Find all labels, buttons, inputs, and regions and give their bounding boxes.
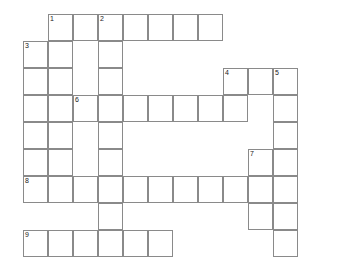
- crossword-cell[interactable]: [123, 95, 148, 122]
- crossword-cell[interactable]: [98, 68, 123, 95]
- crossword-cell[interactable]: [48, 41, 73, 68]
- crossword-grid[interactable]: 123456789: [0, 0, 346, 267]
- clue-number-1: 1: [50, 15, 54, 23]
- crossword-cell[interactable]: [48, 122, 73, 149]
- crossword-cell[interactable]: [248, 203, 273, 230]
- crossword-cell[interactable]: [273, 230, 298, 257]
- crossword-cell[interactable]: [148, 95, 173, 122]
- crossword-cell[interactable]: [198, 95, 223, 122]
- crossword-cell[interactable]: 7: [248, 149, 273, 176]
- clue-number-6: 6: [75, 96, 79, 104]
- crossword-cell[interactable]: [148, 14, 173, 41]
- crossword-cell[interactable]: 8: [23, 176, 48, 203]
- crossword-cell[interactable]: [23, 122, 48, 149]
- crossword-cell[interactable]: [23, 68, 48, 95]
- crossword-cell[interactable]: [98, 176, 123, 203]
- crossword-cell[interactable]: [98, 41, 123, 68]
- crossword-cell[interactable]: [148, 176, 173, 203]
- clue-number-3: 3: [25, 42, 29, 50]
- clue-number-2: 2: [100, 15, 104, 23]
- crossword-cell[interactable]: [198, 176, 223, 203]
- crossword-cell[interactable]: 2: [98, 14, 123, 41]
- clue-number-4: 4: [225, 69, 229, 77]
- crossword-cell[interactable]: [73, 176, 98, 203]
- crossword-cell[interactable]: [98, 230, 123, 257]
- crossword-cell[interactable]: [173, 176, 198, 203]
- crossword-cell[interactable]: [198, 14, 223, 41]
- crossword-cell[interactable]: [248, 176, 273, 203]
- crossword-cell[interactable]: [98, 203, 123, 230]
- crossword-cell[interactable]: [173, 14, 198, 41]
- crossword-cell[interactable]: [23, 95, 48, 122]
- crossword-cell[interactable]: [48, 230, 73, 257]
- crossword-cell[interactable]: [48, 95, 73, 122]
- crossword-cell[interactable]: [23, 149, 48, 176]
- crossword-cell[interactable]: [48, 176, 73, 203]
- crossword-cell[interactable]: 1: [48, 14, 73, 41]
- crossword-cell[interactable]: [123, 176, 148, 203]
- crossword-cell[interactable]: [223, 95, 248, 122]
- crossword-cell[interactable]: [273, 203, 298, 230]
- crossword-puzzle: 123456789: [0, 0, 346, 267]
- crossword-cell[interactable]: [98, 95, 123, 122]
- crossword-cell[interactable]: [98, 149, 123, 176]
- crossword-cell[interactable]: [273, 176, 298, 203]
- crossword-cell[interactable]: [48, 149, 73, 176]
- crossword-cell[interactable]: [223, 176, 248, 203]
- crossword-cell[interactable]: 5: [273, 68, 298, 95]
- crossword-cell[interactable]: [273, 149, 298, 176]
- crossword-cell[interactable]: [273, 122, 298, 149]
- crossword-cell[interactable]: 9: [23, 230, 48, 257]
- crossword-cell[interactable]: [173, 95, 198, 122]
- crossword-cell[interactable]: [73, 230, 98, 257]
- crossword-cell[interactable]: 4: [223, 68, 248, 95]
- clue-number-7: 7: [250, 150, 254, 158]
- crossword-cell[interactable]: [248, 68, 273, 95]
- crossword-cell[interactable]: [98, 122, 123, 149]
- crossword-cell[interactable]: 6: [73, 95, 98, 122]
- crossword-cell[interactable]: [148, 230, 173, 257]
- crossword-cell[interactable]: [123, 230, 148, 257]
- clue-number-9: 9: [25, 231, 29, 239]
- crossword-cell[interactable]: [48, 68, 73, 95]
- clue-number-8: 8: [25, 177, 29, 185]
- clue-number-5: 5: [275, 69, 279, 77]
- crossword-cell[interactable]: [73, 14, 98, 41]
- crossword-cell[interactable]: [273, 95, 298, 122]
- crossword-cell[interactable]: [123, 14, 148, 41]
- crossword-cell[interactable]: 3: [23, 41, 48, 68]
